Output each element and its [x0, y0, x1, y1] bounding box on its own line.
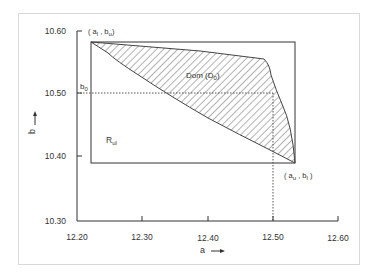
y-tick-label: 10.50 — [30, 89, 66, 98]
y-tick-label: 10.60 — [30, 27, 66, 36]
x-axis-title: a — [200, 246, 205, 255]
x-axis-arrow-icon — [211, 249, 225, 253]
r-ul-label: Rul — [106, 136, 117, 146]
x-tick-label: 12.50 — [253, 233, 293, 242]
x-tick-label: 12.30 — [122, 233, 162, 242]
dominance-label: Dom (D0) — [186, 72, 220, 81]
y-axis-title: b — [28, 129, 37, 134]
y-tick-label: 10.40 — [30, 152, 66, 161]
dominance-region — [91, 42, 295, 163]
point-al-bu-label: ( al , bu) — [88, 28, 114, 37]
x-tick-label: 12.20 — [57, 233, 97, 242]
y-tick-label: 10.30 — [30, 217, 66, 226]
x-tick-label: 12.40 — [188, 234, 228, 243]
b0-label: b0 — [80, 83, 88, 92]
x-tick-label: 12.60 — [318, 234, 358, 243]
y-axis-arrow-icon — [33, 111, 37, 125]
point-au-bl-label: ( au , bl ) — [284, 172, 312, 181]
